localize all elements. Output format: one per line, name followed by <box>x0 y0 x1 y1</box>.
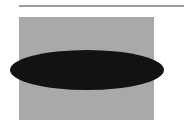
diagram-canvas <box>0 0 185 130</box>
black-ellipse <box>10 50 164 90</box>
